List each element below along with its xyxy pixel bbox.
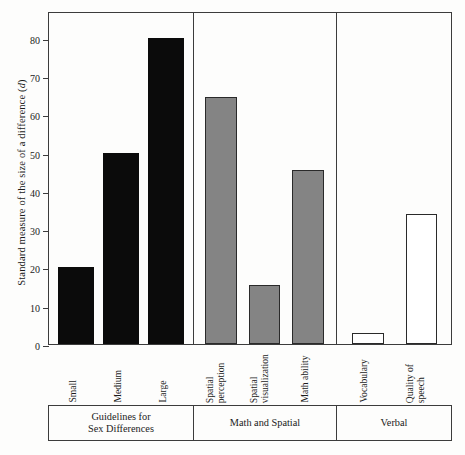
group-label-guidelines: Guidelines for Sex Differences (49, 406, 193, 440)
y-axis-tick (43, 231, 49, 232)
category-label-line2: visualization (259, 354, 270, 403)
bar (406, 214, 438, 344)
y-axis-tick (43, 193, 49, 194)
category-label-line2: perception (215, 363, 226, 404)
y-axis-tick-label: 30 (30, 226, 40, 237)
group-label-verbal: Verbal (336, 406, 451, 440)
category-label: Spatialperception (205, 363, 226, 404)
bar (103, 153, 139, 344)
bar (249, 285, 281, 344)
category-label: Large (158, 381, 169, 403)
category-label: Spatialvisualization (248, 354, 269, 403)
y-axis-tick-label: 80 (30, 34, 40, 45)
y-axis-tick-label: 50 (30, 149, 40, 160)
y-axis-tick (43, 116, 49, 117)
plot-area: 01020304050607080 (48, 12, 452, 345)
y-axis-title-symbol: d (16, 83, 27, 88)
bar (148, 38, 184, 344)
y-axis-tick-label: 10 (30, 302, 40, 313)
category-label-line1: Math ability (300, 356, 311, 403)
bar-chart-figure: Standard measure of the size of a differ… (0, 0, 465, 455)
y-axis-tick (43, 308, 49, 309)
y-axis-tick (43, 155, 49, 156)
panel-divider-1 (193, 13, 194, 344)
category-label: Math ability (300, 356, 311, 403)
y-axis-tick (43, 40, 49, 41)
y-axis-tick-label: 40 (30, 187, 40, 198)
group-label-math-spatial: Math and Spatial (193, 406, 336, 440)
y-axis-tick (43, 269, 49, 270)
panel-divider-2 (336, 13, 337, 344)
y-axis-tick (43, 78, 49, 79)
y-axis-tick-label: 70 (30, 73, 40, 84)
y-axis-title-pre: Standard measure of the size of a differ… (16, 88, 27, 285)
category-label-line1: Vocabulary (360, 359, 371, 403)
y-axis-title-post: ) (16, 79, 27, 83)
y-axis-tick-label: 0 (35, 341, 40, 352)
category-label-line1: Medium (113, 370, 124, 403)
group-label-band: Guidelines for Sex Differences Math and … (48, 405, 452, 441)
bar (292, 170, 324, 344)
group-label-line1: Math and Spatial (230, 417, 300, 429)
category-label-line1: Spatial (248, 354, 259, 403)
bar (58, 267, 94, 344)
y-axis-title: Standard measure of the size of a differ… (16, 33, 27, 333)
category-label: Small (68, 381, 79, 403)
y-axis-tick-label: 20 (30, 264, 40, 275)
group-label-line1: Guidelines for (88, 411, 154, 423)
category-label-line1: Large (158, 381, 169, 403)
category-label-line1: Small (68, 381, 79, 403)
bar (205, 97, 237, 344)
category-label-line1: Spatial (205, 363, 216, 404)
category-labels-row: SmallMediumLargeSpatialperceptionSpatial… (48, 345, 452, 405)
y-axis-tick-label: 60 (30, 111, 40, 122)
group-label-line2: Sex Differences (88, 423, 154, 435)
category-label: Quality ofspeech (405, 364, 426, 403)
category-label: Medium (113, 370, 124, 403)
category-label: Vocabulary (360, 359, 371, 403)
bar (352, 333, 384, 344)
group-label-line1: Verbal (381, 417, 408, 429)
category-label-line2: speech (416, 364, 427, 403)
